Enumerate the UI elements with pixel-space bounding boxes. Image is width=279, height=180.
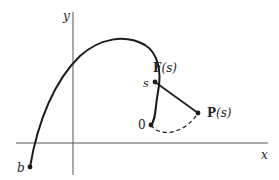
b-label: b [17,161,25,175]
F-label: F(s) [153,61,177,75]
arc-length-label: s [143,77,149,90]
y-axis-label: y [62,9,70,23]
origin-label: 0 [138,118,146,132]
point-F [153,80,158,85]
P-label: P(s) [207,106,232,120]
point-P [196,111,201,116]
point-origin [149,123,154,128]
involute-curve [30,39,159,167]
dashed-curve [151,113,198,132]
point-b [28,165,33,170]
x-axis-label: x [261,148,268,162]
tangent-segment [155,82,198,113]
P-label-arg: (s) [216,106,232,120]
diagram-canvas: y x b 0 s F(s) P(s) [0,0,279,180]
P-label-main: P [207,106,216,120]
F-label-arg: (s) [162,61,178,75]
